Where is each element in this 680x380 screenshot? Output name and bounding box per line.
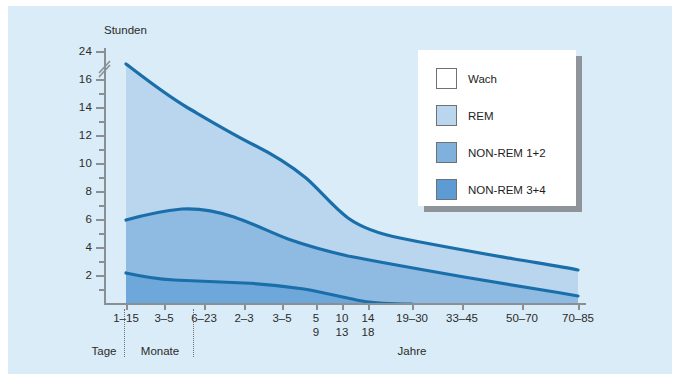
x-label-11: 70–85 — [562, 312, 594, 324]
y-label-16: 16 — [58, 73, 92, 85]
y-axis-line — [104, 48, 106, 304]
legend-swatch-nonrem12-icon — [436, 142, 457, 163]
y-tick-2 — [96, 275, 105, 277]
y-tick-4 — [96, 247, 105, 249]
x-tick-1 — [164, 303, 166, 310]
x-label-6: 10 — [336, 312, 349, 324]
x-tick-4 — [282, 303, 284, 310]
y-axis-title: Stunden — [104, 24, 147, 36]
legend-item-rem[interactable]: REM — [436, 105, 494, 126]
x-label-8: 19–30 — [396, 312, 428, 324]
group-separator-tage-monate — [124, 309, 125, 357]
y-tick-14 — [96, 107, 105, 109]
y-tick-5 — [99, 233, 105, 235]
x-label-2: 6–23 — [191, 312, 217, 324]
x-tick-2 — [204, 303, 206, 310]
y-label-24: 24 — [58, 45, 92, 57]
y-label-12: 12 — [58, 129, 92, 141]
x-tick-10 — [522, 303, 524, 310]
legend-label-wach: Wach — [468, 73, 497, 85]
x-label-sub-9: 9 — [313, 326, 319, 338]
y-label-4: 4 — [58, 241, 92, 253]
y-label-10: 10 — [58, 157, 92, 169]
x-label-sub-18: 18 — [362, 326, 375, 338]
group-label-tage: Tage — [92, 345, 117, 357]
legend-box: Wach REM NON-REM 1+2 NON-REM 3+4 — [418, 50, 576, 206]
legend-label-nonrem12: NON-REM 1+2 — [468, 147, 546, 159]
legend-label-nonrem34: NON-REM 3+4 — [468, 184, 546, 196]
legend-item-nonrem34[interactable]: NON-REM 3+4 — [436, 179, 546, 200]
legend-label-rem: REM — [468, 110, 494, 122]
y-tick-16 — [96, 79, 105, 81]
x-tick-11 — [578, 303, 580, 310]
y-label-14: 14 — [58, 101, 92, 113]
y-tick-9 — [99, 177, 105, 179]
x-tick-9 — [462, 303, 464, 310]
legend-item-wach[interactable]: Wach — [436, 68, 497, 89]
y-tick-10 — [96, 163, 105, 165]
legend-swatch-wach-icon — [436, 68, 457, 89]
x-label-7: 14 — [362, 312, 375, 324]
x-label-0: 1–15 — [113, 312, 139, 324]
x-tick-0 — [126, 303, 128, 310]
x-tick-8 — [412, 303, 414, 310]
y-tick-7 — [99, 205, 105, 207]
y-tick-8 — [96, 191, 105, 193]
group-label-monate: Monate — [141, 345, 179, 357]
y-label-8: 8 — [58, 185, 92, 197]
x-label-4: 3–5 — [272, 312, 291, 324]
x-tick-3 — [244, 303, 246, 310]
x-label-9: 33–45 — [446, 312, 478, 324]
chart-root: Stunden 24 16 14 12 10 — [0, 0, 680, 380]
x-label-sub-13: 13 — [336, 326, 349, 338]
x-label-5: 5 — [313, 312, 319, 324]
group-label-jahre: Jahre — [398, 345, 427, 357]
x-axis-line — [104, 303, 586, 305]
y-tick-11 — [99, 149, 105, 151]
x-label-10: 50–70 — [506, 312, 538, 324]
y-label-6: 6 — [58, 213, 92, 225]
x-label-1: 3–5 — [154, 312, 173, 324]
x-tick-7 — [368, 303, 370, 310]
y-tick-15 — [99, 93, 105, 95]
y-tick-3 — [99, 261, 105, 263]
legend-item-nonrem12[interactable]: NON-REM 1+2 — [436, 142, 546, 163]
group-separator-monate-jahre — [193, 309, 194, 357]
legend-swatch-nonrem34-icon — [436, 179, 457, 200]
legend-swatch-rem-icon — [436, 105, 457, 126]
y-tick-24 — [96, 51, 105, 53]
y-tick-13 — [99, 121, 105, 123]
x-tick-5 — [316, 303, 318, 310]
y-tick-1 — [99, 289, 105, 291]
y-tick-12 — [96, 135, 105, 137]
y-axis-break-icon — [96, 58, 114, 80]
y-label-2: 2 — [58, 269, 92, 281]
y-tick-6 — [96, 219, 105, 221]
x-label-3: 2–3 — [234, 312, 253, 324]
x-tick-6 — [342, 303, 344, 310]
